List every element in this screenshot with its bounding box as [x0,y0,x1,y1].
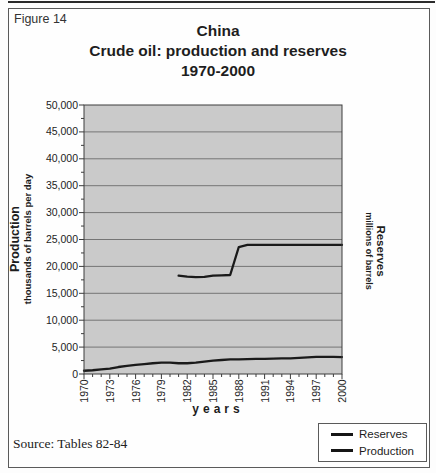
legend-item-reserves: Reserves [331,428,426,440]
left-axis-title-main: Production [8,153,22,325]
left-axis-title: Production thousands of barrels per day [8,153,40,325]
right-axis-title: Reserves millions of barrels [361,191,387,311]
legend: Reserves Production [318,423,427,462]
y-axis-tick-label: 5,000 [28,341,78,353]
right-axis-title-main: Reserves [374,191,387,311]
production-line-swatch [331,449,353,452]
reserves-line-swatch [331,433,353,436]
x-axis-title: years [138,402,298,416]
x-axis-tick-label: 2000 [336,376,348,406]
right-axis-title-sub: millions of barrels [364,191,374,311]
x-axis-tick-label: 1997 [310,376,322,406]
legend-label-production: Production [359,445,414,457]
legend-label-reserves: Reserves [359,428,408,440]
source-note: Source: Tables 82-84 [13,436,127,452]
y-axis-tick-label: 45,000 [28,125,78,137]
legend-item-production: Production [331,445,426,457]
y-axis-tick-label: 50,000 [28,99,78,111]
x-axis-tick-label: 1973 [104,376,116,406]
y-axis-tick-label: 0 [28,368,78,380]
left-axis-title-sub: thousands of barrels per day [22,153,33,325]
x-axis-tick-label: 1970 [78,376,90,406]
